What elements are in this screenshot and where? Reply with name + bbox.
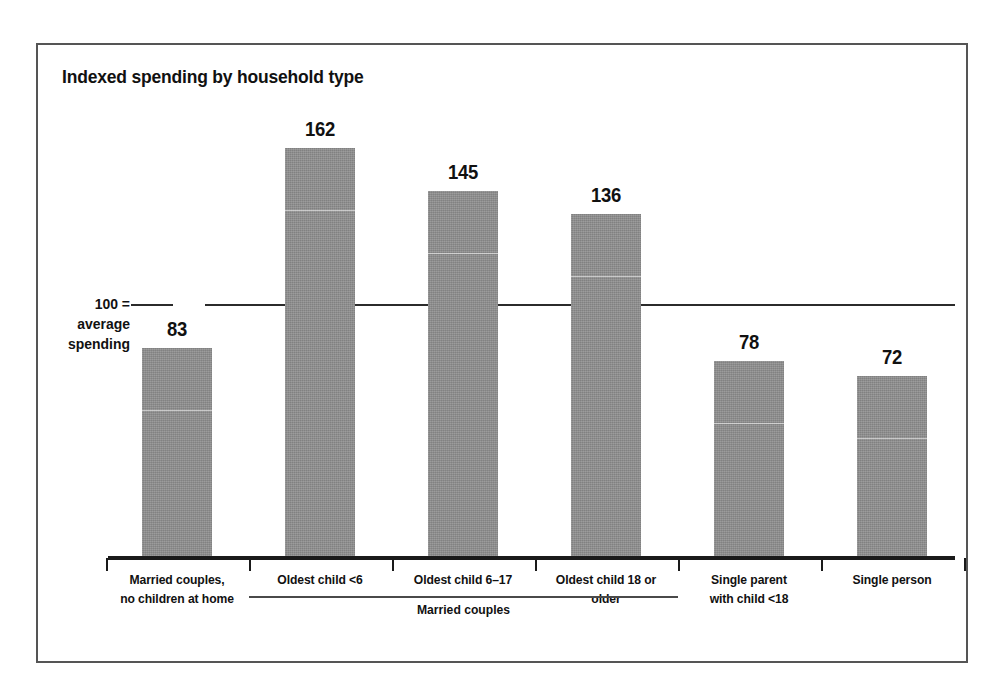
chart-page: Indexed spending by household type 100 =… [0,0,998,694]
chart-frame [36,43,968,663]
chart-title: Indexed spending by household type [62,66,364,88]
